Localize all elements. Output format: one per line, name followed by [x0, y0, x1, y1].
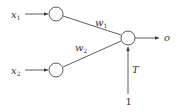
weight-w1-label: w1: [95, 17, 107, 29]
input-x2-label: x2: [11, 65, 21, 77]
weight-w2-label: w2: [75, 42, 88, 54]
input-x1-label: x1: [11, 9, 20, 21]
threshold-label: T: [132, 64, 140, 75]
output-label: o: [164, 32, 170, 43]
bias-input-label: 1: [126, 96, 132, 107]
output-neuron: [121, 31, 135, 45]
input-node-2: [49, 63, 63, 77]
input-node-1: [49, 7, 63, 21]
weight-edge-2: [63, 41, 121, 67]
perceptron-diagram: x1 x2 w1 w2 o T 1: [0, 0, 179, 112]
weight-edge-1: [63, 16, 121, 35]
